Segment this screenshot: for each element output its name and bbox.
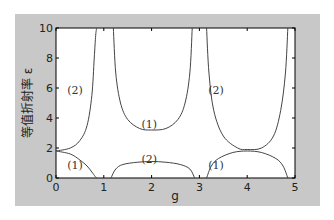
chart: 0123450246810 (2)(1)(1)(2)(2)(1) g 等值折射率… [0, 0, 334, 220]
x-tick-label: 0 [53, 181, 60, 194]
x-tick-label: 3 [196, 181, 203, 194]
curve-annotation: (2) [67, 84, 83, 97]
x-tick-label: 4 [244, 181, 251, 194]
y-tick-label: 4 [46, 112, 53, 125]
curve-annotation: (1) [141, 118, 157, 131]
y-axis-label: 等值折射率 ε [20, 68, 35, 138]
curve-annotation: (1) [67, 159, 83, 172]
x-axis-label: g [171, 189, 179, 203]
y-tick-label: 8 [46, 52, 53, 65]
y-tick-label: 2 [46, 142, 53, 155]
x-tick-label: 5 [292, 181, 299, 194]
x-tick-label: 2 [148, 181, 155, 194]
curve-annotation: (2) [141, 153, 157, 166]
y-tick-label: 10 [39, 22, 53, 35]
curve-annotation: (2) [208, 84, 224, 97]
x-tick-label: 1 [100, 181, 107, 194]
plot-area [56, 28, 295, 178]
curve-annotation: (1) [208, 159, 224, 172]
y-tick-label: 6 [46, 82, 53, 95]
y-tick-label: 0 [46, 172, 53, 185]
